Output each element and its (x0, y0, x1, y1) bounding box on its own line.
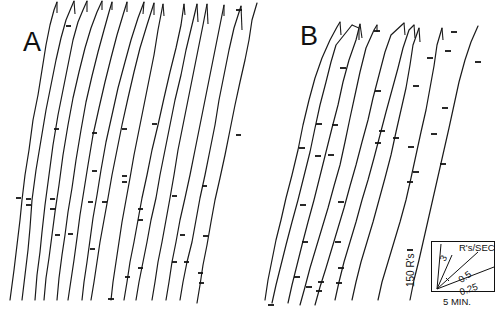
panel-a-traces (10, 1, 257, 303)
rate-key-y-scale: 150 R's (405, 253, 416, 287)
rate-key-title: R's/SEC (459, 242, 495, 253)
panel-a-label: A (23, 27, 41, 58)
rate-key-x-scale: 5 MIN. (443, 296, 471, 307)
cumulative-record-figure (0, 0, 499, 315)
panel-b-label: B (300, 21, 318, 52)
